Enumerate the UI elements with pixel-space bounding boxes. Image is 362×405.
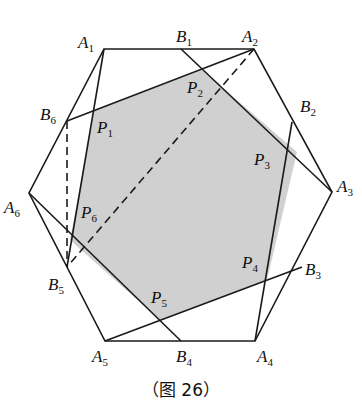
label-a2: A2 <box>241 27 258 48</box>
figure-caption: （图 26） <box>142 380 220 400</box>
label-b2: B2 <box>300 97 316 118</box>
label-b4: B4 <box>176 347 192 368</box>
label-a3: A3 <box>336 177 353 198</box>
label-b3: B3 <box>305 260 321 281</box>
hexagon-diagram: A1B1A2B2A3B3A4B4A5B5A6B6P1P2P3P4P5P6 （图 … <box>0 0 362 405</box>
label-b1: B1 <box>176 27 192 48</box>
label-a5: A5 <box>91 347 108 368</box>
label-a1: A1 <box>77 33 94 54</box>
label-a4: A4 <box>256 347 273 368</box>
label-b5: B5 <box>48 275 64 296</box>
label-a6: A6 <box>3 198 20 219</box>
label-b6: B6 <box>40 105 56 126</box>
